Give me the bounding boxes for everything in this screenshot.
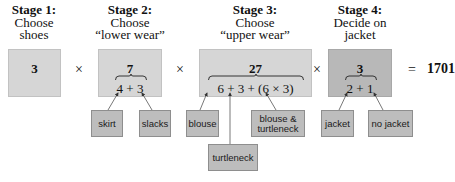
- option-turtleneck: turtleneck: [208, 144, 258, 171]
- option-slacks: slacks: [139, 110, 171, 137]
- option-blouse: blouse: [186, 110, 219, 137]
- option-blouse-and-turtleneck-line2: turtleneck: [257, 124, 298, 134]
- option-no-jacket: no jacket: [368, 110, 413, 137]
- option-blouse-and-turtleneck-line1: blouse &: [260, 114, 297, 124]
- option-blouse-and-turtleneck: blouse & turtleneck: [251, 110, 305, 137]
- option-jacket: jacket: [321, 110, 354, 137]
- option-skirt: skirt: [91, 110, 123, 137]
